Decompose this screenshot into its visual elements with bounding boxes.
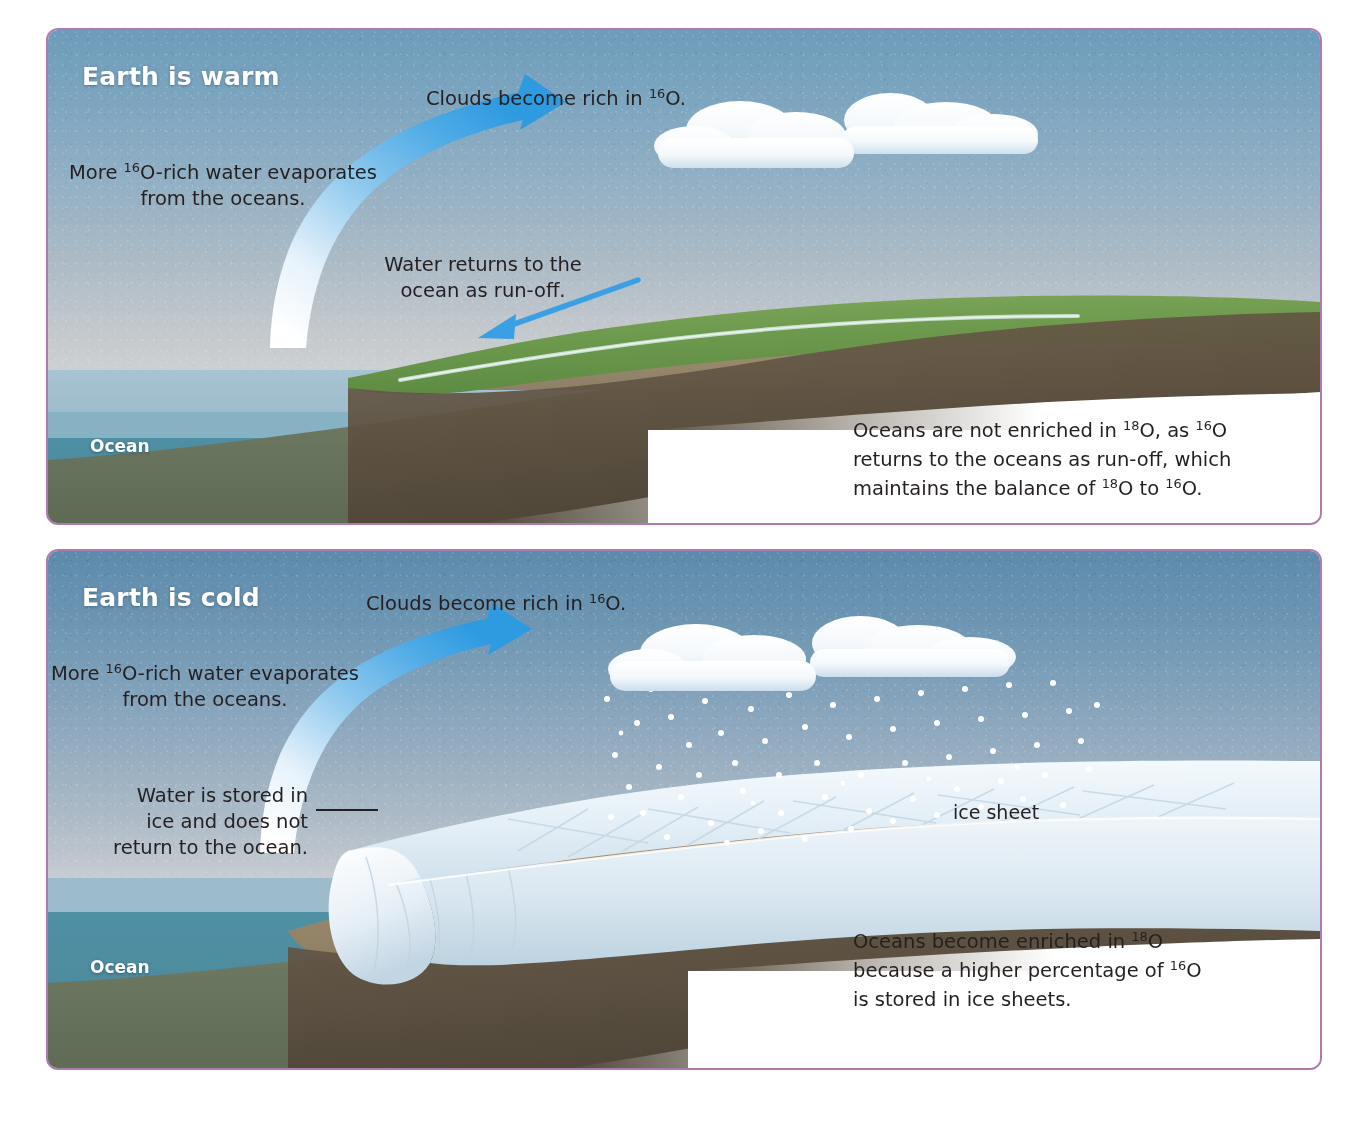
cloud-back	[842, 93, 1038, 154]
cap1-c: O	[1212, 419, 1227, 442]
ocean-label-cold: Ocean	[90, 957, 150, 977]
cap2-b: O	[1148, 930, 1163, 953]
cloud-back-cold	[810, 616, 1016, 677]
cloud-annotation-cold: Clouds become rich in 16O.	[366, 591, 786, 617]
cap2-l2a: because a higher percentage of	[853, 959, 1170, 982]
cloud-annotation-warm: Clouds become rich in 16O.	[366, 86, 746, 112]
evap-post: O-rich water evaporates	[140, 161, 377, 184]
cap1-l3a: maintains the balance of	[853, 477, 1102, 500]
cloud-note-post: O.	[665, 87, 686, 110]
caption-warm: Oceans are not enriched in 18O, as 16O r…	[853, 416, 1322, 503]
figure-root: Earth is warm Clouds become rich in 16O.…	[0, 0, 1365, 1121]
evap-sup: 16	[124, 160, 140, 175]
cloud-note-pre-cold: Clouds become rich in	[366, 592, 589, 615]
ocean-label-warm: Ocean	[90, 436, 150, 456]
evap-pre-cold: More	[51, 662, 106, 685]
panel-earth-is-cold: Earth is cold Clouds become rich in 16O.…	[46, 549, 1322, 1070]
evaporation-arrow-shaft	[270, 88, 540, 348]
storage-annotation-cold: Water is stored in ice and does not retu…	[68, 783, 308, 861]
evap-line2: from the oceans.	[140, 187, 305, 210]
storage-line2: ice and does not	[146, 810, 308, 833]
evaporation-annotation-cold: More 16O-rich water evaporates from the …	[46, 661, 370, 713]
cloud-note-pre: Clouds become rich in	[426, 87, 649, 110]
cap2-a: Oceans become enriched in	[853, 930, 1131, 953]
cap1-l2: returns to the oceans as run-off, which	[853, 448, 1231, 471]
cap1-sup2: 16	[1195, 418, 1211, 433]
cloud-note-post-cold: O.	[605, 592, 626, 615]
cap1-l3c: O.	[1182, 477, 1203, 500]
panel-earth-is-warm: Earth is warm Clouds become rich in 16O.…	[46, 28, 1322, 525]
cap1-sup1: 18	[1123, 418, 1139, 433]
runoff-line2: ocean as run-off.	[400, 279, 565, 302]
cap1-l3b: O to	[1118, 477, 1165, 500]
cloud-note-sup: 16	[649, 86, 665, 101]
ice-sheet-label: ice sheet	[953, 801, 1039, 823]
cloud-front-cold	[608, 624, 816, 691]
cap1-b: O, as	[1139, 419, 1195, 442]
evap-post-cold: O-rich water evaporates	[122, 662, 359, 685]
cap1-a: Oceans are not enriched in	[853, 419, 1123, 442]
runoff-line1: Water returns to the	[384, 253, 582, 276]
runoff-annotation-warm: Water returns to the ocean as run-off.	[348, 252, 618, 304]
runoff-arrow-head	[478, 314, 516, 339]
cap1-l3sup2: 16	[1165, 476, 1181, 491]
cap2-l2b: O	[1186, 959, 1201, 982]
panel-title-warm: Earth is warm	[82, 62, 280, 91]
evap-sup-cold: 16	[106, 661, 122, 676]
panel-title-cold: Earth is cold	[82, 583, 260, 612]
evap-pre: More	[69, 161, 124, 184]
storage-line1: Water is stored in	[137, 784, 308, 807]
caption-cold: Oceans become enriched in 18O because a …	[853, 927, 1322, 1014]
cloud-note-sup-cold: 16	[589, 591, 605, 606]
evaporation-annotation-warm: More 16O-rich water evaporates from the …	[58, 160, 388, 212]
cap2-l3: is stored in ice sheets.	[853, 988, 1072, 1011]
cap2-sup: 18	[1131, 929, 1147, 944]
storage-line3: return to the ocean.	[113, 836, 308, 859]
cap2-l2sup: 16	[1170, 958, 1186, 973]
evap-line2-cold: from the oceans.	[122, 688, 287, 711]
cap1-l3sup1: 18	[1102, 476, 1118, 491]
